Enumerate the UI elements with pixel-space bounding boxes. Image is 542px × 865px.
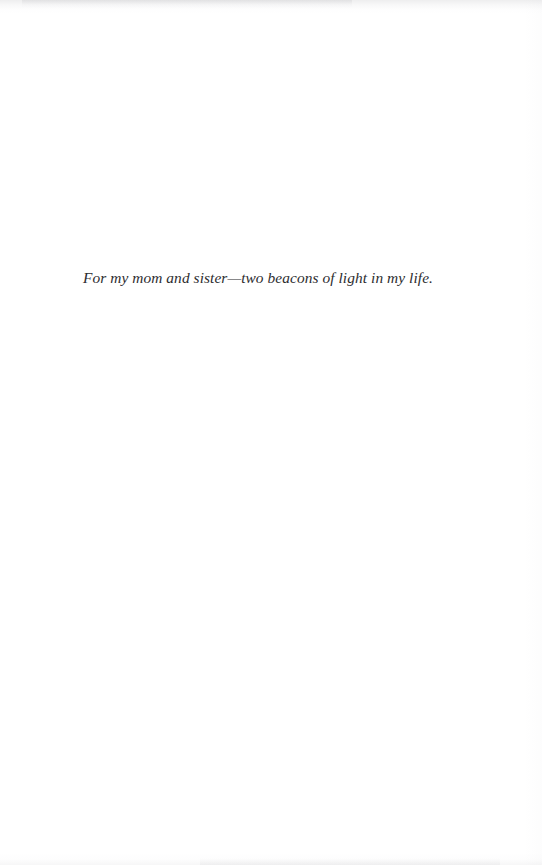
dedication-text: For my mom and sister—two beacons of lig… [83, 268, 463, 288]
scan-artifact-bottom-edge [0, 853, 542, 865]
scan-artifact-right-edge [524, 0, 542, 865]
scanned-page: For my mom and sister—two beacons of lig… [0, 0, 542, 865]
scan-artifact-top-edge [0, 0, 542, 14]
